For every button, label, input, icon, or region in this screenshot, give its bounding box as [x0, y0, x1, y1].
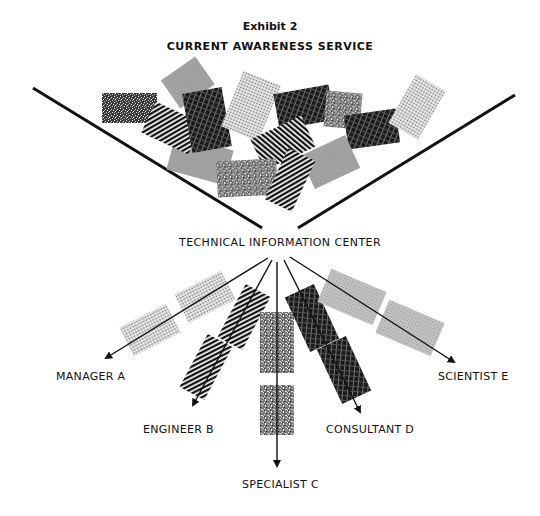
diagram-canvas: TECHNICAL INFORMATION CENTER: [0, 0, 540, 516]
recipient-consultant-d: CONSULTANT D: [326, 423, 414, 436]
incoming-documents: [102, 56, 446, 211]
recipient-engineer-b: ENGINEER B: [143, 423, 214, 436]
technical-information-center-label: TECHNICAL INFORMATION CENTER: [160, 236, 400, 249]
route-specialist-c: [260, 262, 294, 466]
recipient-specialist-c: SPECIALIST C: [242, 478, 319, 491]
recipient-manager-a: MANAGER A: [56, 370, 125, 383]
recipient-scientist-e: SCIENTIST E: [438, 370, 509, 383]
